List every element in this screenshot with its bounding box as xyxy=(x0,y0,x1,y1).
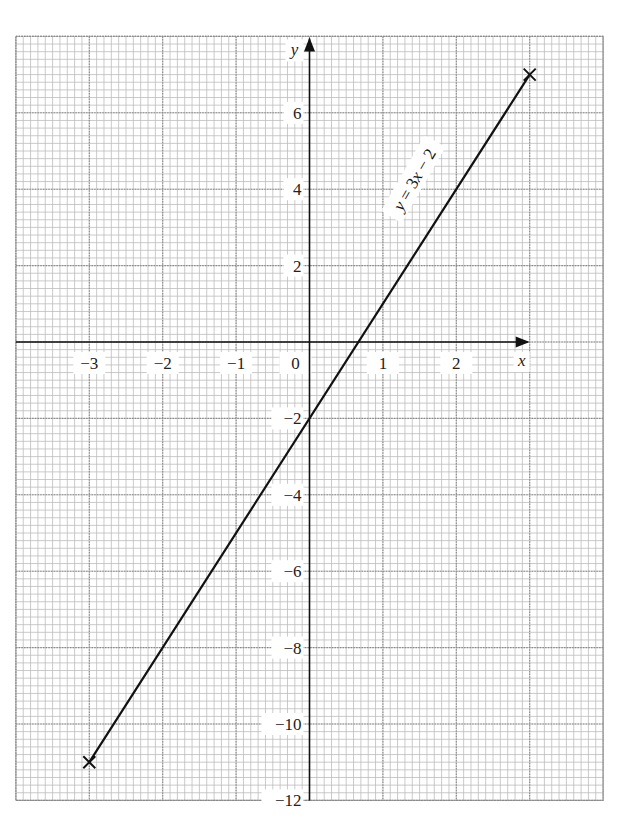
x-tick-label: −1 xyxy=(227,354,245,373)
y-tick-label: −10 xyxy=(275,715,302,734)
y-tick-label: 6 xyxy=(293,104,302,123)
x-tick-label: 1 xyxy=(379,354,388,373)
x-tick-label: −3 xyxy=(80,354,98,373)
y-tick-label: 4 xyxy=(293,180,302,199)
x-tick-label: 2 xyxy=(452,354,461,373)
y-tick-label: 2 xyxy=(293,257,302,276)
y-tick-label: −8 xyxy=(283,639,301,658)
y-tick-label: −4 xyxy=(283,486,302,505)
graph-paper-chart: −3−2−1012642−2−4−6−8−10−12 x y y = 3x − … xyxy=(0,0,623,833)
y-tick-label: −2 xyxy=(283,409,301,428)
x-tick-label: −2 xyxy=(154,354,172,373)
y-tick-label: −6 xyxy=(283,562,301,581)
label-backgrounds xyxy=(73,39,529,811)
x-axis-label: x xyxy=(517,351,526,370)
y-axis-label: y xyxy=(289,40,299,59)
x-tick-label: 0 xyxy=(291,354,300,373)
y-tick-label: −12 xyxy=(275,791,302,810)
